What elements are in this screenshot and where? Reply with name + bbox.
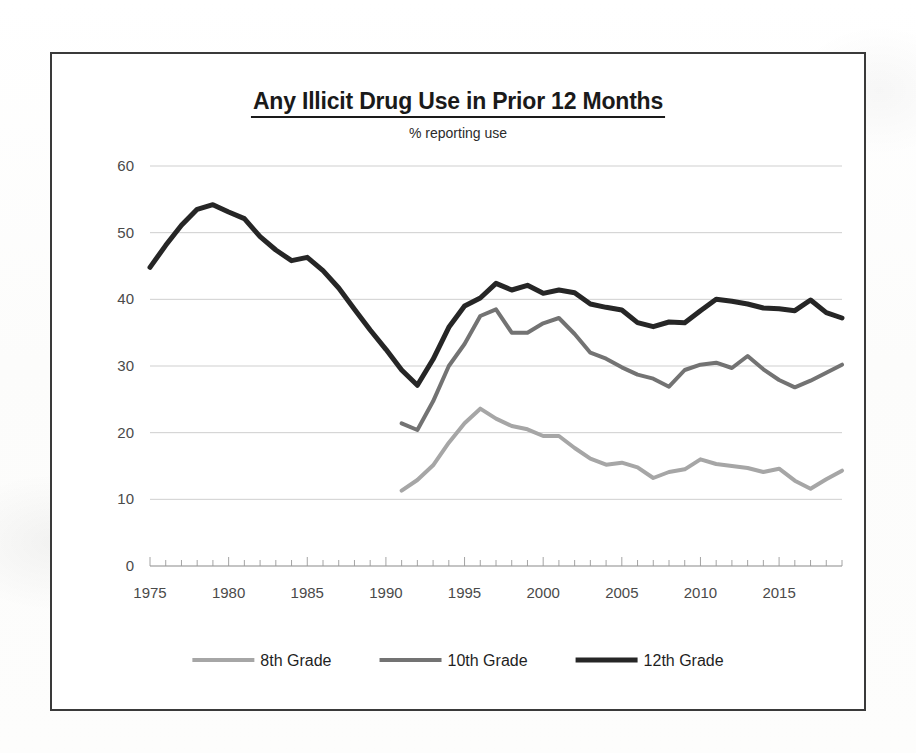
x-tick-label: 2010 <box>684 584 717 601</box>
series-line-10th-grade <box>402 309 842 430</box>
x-tick-label: 1985 <box>291 584 324 601</box>
series-line-8th-grade <box>402 409 842 491</box>
x-tick-label: 2005 <box>605 584 638 601</box>
x-axis <box>150 557 842 566</box>
y-tick-label: 40 <box>117 290 134 307</box>
x-tick-label: 1990 <box>369 584 402 601</box>
legend-item-8th-grade[interactable]: 8th Grade <box>192 652 331 669</box>
legend-label: 12th Grade <box>644 652 724 669</box>
y-tick-label: 10 <box>117 490 134 507</box>
x-tick-label: 1995 <box>448 584 481 601</box>
line-chart: Any Illicit Drug Use in Prior 12 Months … <box>52 54 864 709</box>
chart-subtitle: % reporting use <box>409 125 507 141</box>
y-tick-label: 50 <box>117 224 134 241</box>
y-tick-label: 20 <box>117 424 134 441</box>
x-axis-tick-labels: 197519801985199019952000200520102015 <box>133 584 795 601</box>
x-tick-label: 2015 <box>762 584 795 601</box>
page-background: Any Illicit Drug Use in Prior 12 Months … <box>0 0 916 753</box>
x-tick-label: 1980 <box>212 584 245 601</box>
legend-label: 8th Grade <box>260 652 331 669</box>
x-tick-label: 1975 <box>133 584 166 601</box>
y-tick-label: 0 <box>126 557 134 574</box>
gridlines <box>150 166 842 499</box>
series-lines <box>150 205 842 491</box>
chart-title: Any Illicit Drug Use in Prior 12 Months <box>253 88 663 114</box>
chart-legend: 8th Grade10th Grade12th Grade <box>192 652 723 669</box>
y-axis-tick-labels: 0102030405060 <box>117 157 134 574</box>
chart-frame: Any Illicit Drug Use in Prior 12 Months … <box>50 52 866 711</box>
legend-item-10th-grade[interactable]: 10th Grade <box>380 652 528 669</box>
y-tick-label: 30 <box>117 357 134 374</box>
x-tick-label: 2000 <box>526 584 559 601</box>
y-tick-label: 60 <box>117 157 134 174</box>
legend-label: 10th Grade <box>448 652 528 669</box>
legend-item-12th-grade[interactable]: 12th Grade <box>576 652 724 669</box>
series-line-12th-grade <box>150 205 842 386</box>
